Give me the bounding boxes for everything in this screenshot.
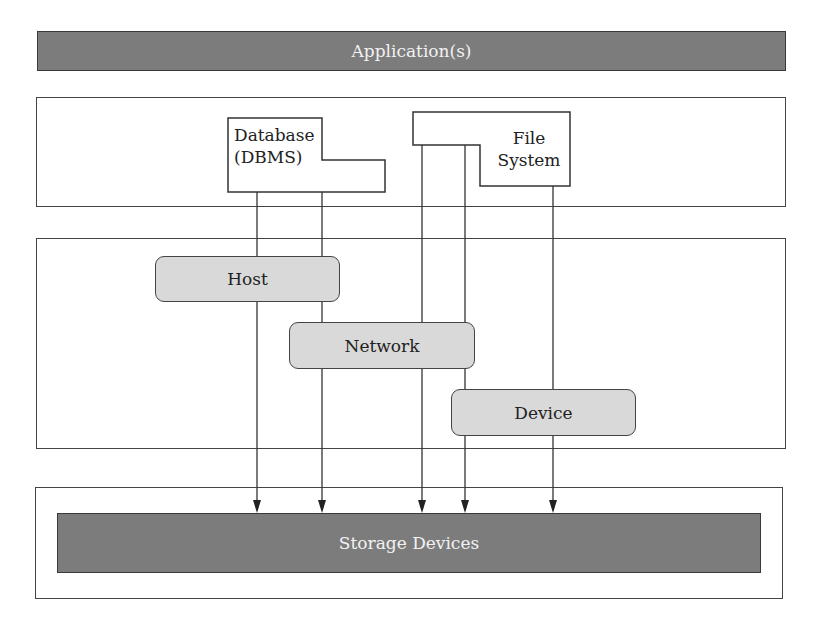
database-label-line1: Database <box>234 124 315 146</box>
database-label-line2: (DBMS) <box>234 146 315 168</box>
file-system-label-line1: File <box>490 127 568 149</box>
file-system-label-line2: System <box>490 149 568 171</box>
device-box: Device <box>451 389 636 436</box>
host-label: Host <box>227 269 268 289</box>
database-label: Database (DBMS) <box>234 124 315 168</box>
device-label: Device <box>514 403 572 423</box>
network-label: Network <box>345 336 420 356</box>
file-system-label: File System <box>490 127 568 171</box>
storage-devices-bar: Storage Devices <box>57 513 761 573</box>
storage-devices-label: Storage Devices <box>339 533 479 553</box>
arrowheads <box>253 500 557 513</box>
network-box: Network <box>289 322 475 369</box>
host-box: Host <box>155 256 340 302</box>
